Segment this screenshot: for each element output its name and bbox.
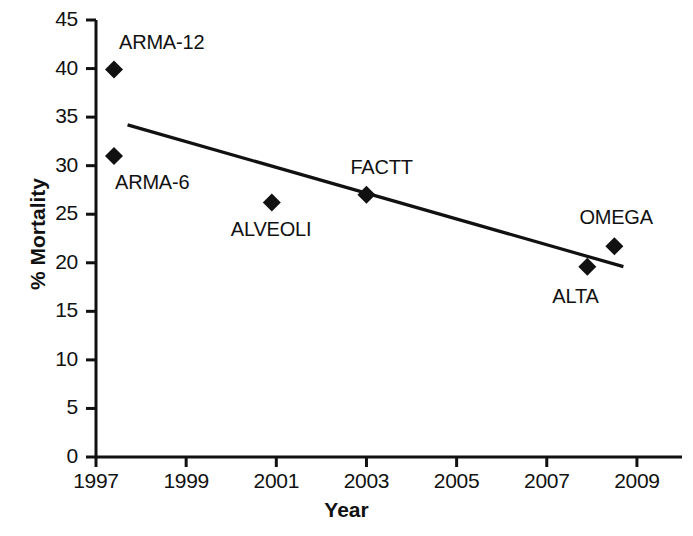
data-point-marker	[578, 258, 596, 276]
data-point-marker	[105, 147, 123, 165]
y-axis-title: % Mortality	[26, 134, 50, 334]
data-point-marker	[105, 61, 123, 79]
x-tick-label: 2001	[231, 469, 321, 493]
data-point-label: ALVEOLI	[231, 218, 312, 241]
x-tick-label: 1997	[51, 469, 141, 493]
x-tick-label: 1999	[141, 469, 231, 493]
data-point-label: ALTA	[552, 285, 598, 308]
x-axis-title: Year	[0, 498, 693, 522]
x-tick-label: 2009	[592, 469, 682, 493]
y-tick-label: 35	[0, 104, 78, 128]
data-point-label: OMEGA	[579, 206, 652, 229]
y-tick-label: 5	[0, 395, 78, 419]
x-tick-label: 2007	[502, 469, 592, 493]
mortality-vs-year-scatter-chart: 051015202530354045 199719992001200320052…	[0, 0, 693, 536]
trendline-group	[128, 125, 624, 267]
plot-area	[0, 0, 693, 536]
axis-lines	[96, 20, 682, 457]
y-tick-label: 10	[0, 347, 78, 371]
y-tick-label: 40	[0, 56, 78, 80]
data-point-marker	[263, 194, 281, 212]
y-tick-label: 45	[0, 7, 78, 31]
data-point-marker	[357, 186, 375, 204]
data-point-label: ARMA-6	[115, 171, 189, 194]
x-tick-label: 2005	[412, 469, 502, 493]
x-tick-label: 2003	[321, 469, 411, 493]
data-point-label: FACTT	[350, 156, 412, 179]
data-point-label: ARMA-12	[119, 31, 204, 54]
y-tick-label: 0	[0, 444, 78, 468]
data-point-marker	[605, 237, 623, 255]
trendline	[128, 125, 624, 267]
